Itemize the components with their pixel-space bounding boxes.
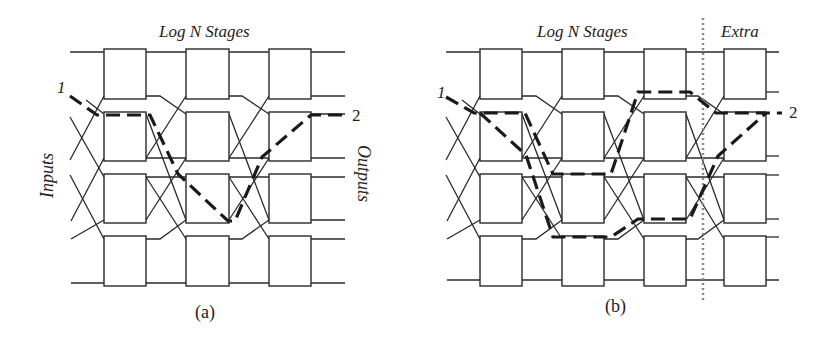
panel-b-dest-label: 2	[789, 103, 798, 122]
switch-box	[104, 174, 146, 223]
switch-box	[644, 174, 686, 223]
extra-switch-box	[724, 112, 766, 161]
panel-b-source-label: 1	[437, 83, 446, 102]
switch-box	[104, 112, 146, 161]
panel-a-outputs-label: Outputs	[354, 145, 374, 202]
panel-b-title: Log N Stages	[536, 22, 628, 41]
switch-box	[562, 49, 604, 99]
switch-box	[104, 49, 146, 99]
panel-b-caption: (b)	[605, 296, 626, 317]
switch-box	[480, 174, 522, 223]
switch-box	[269, 49, 311, 99]
switch-box	[480, 49, 522, 99]
switch-box	[186, 236, 229, 286]
panel-a-source-label: 1	[57, 78, 66, 97]
switch-box	[562, 174, 604, 223]
switch-box	[644, 236, 686, 286]
extra-switch-box	[724, 236, 766, 286]
butterfly-network-diagram: Log N Stages 1 2 Inputs Outputs (a)	[0, 0, 834, 337]
panel-a: Log N Stages 1 2 Inputs Outputs (a)	[37, 22, 374, 323]
panel-a-inputs-label: Inputs	[37, 153, 57, 199]
switch-box	[269, 236, 311, 286]
switch-box	[104, 236, 146, 286]
switch-box	[269, 174, 311, 223]
panel-a-dest-label: 2	[352, 106, 361, 125]
panel-a-switches	[104, 49, 311, 286]
extra-switch-box	[724, 174, 766, 223]
panel-a-caption: (a)	[195, 302, 215, 323]
switch-box	[186, 112, 229, 161]
panel-b: Log N Stages Extra 1 2 (b)	[437, 18, 798, 317]
panel-b-switches	[480, 49, 766, 286]
panel-a-title: Log N Stages	[158, 22, 250, 41]
switch-box	[269, 112, 311, 161]
switch-box	[562, 112, 604, 161]
switch-box	[186, 49, 229, 99]
switch-box	[562, 236, 604, 286]
extra-switch-box	[724, 49, 766, 99]
switch-box	[644, 112, 686, 161]
panel-b-extra-label: Extra	[720, 22, 759, 41]
switch-box	[480, 236, 522, 286]
